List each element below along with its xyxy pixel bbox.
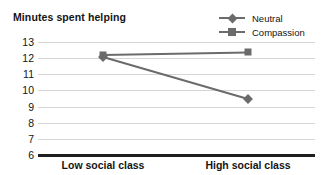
gridline	[38, 90, 315, 91]
x-tick-label-low: Low social class	[62, 159, 145, 171]
series-line-compassion	[103, 51, 248, 55]
gridline	[38, 74, 315, 75]
y-tick-label: 10	[8, 85, 34, 96]
chart-title: Minutes spent helping	[13, 11, 126, 23]
y-tick-label: 9	[8, 101, 34, 112]
gridline	[38, 123, 315, 124]
x-tick-label-high: High social class	[205, 159, 290, 171]
y-axis-tick-labels: 13 12 11 10 9 8 7 6	[4, 42, 34, 155]
gridline	[38, 42, 315, 43]
gridline	[38, 139, 315, 140]
y-tick-label: 13	[8, 37, 34, 48]
square-marker-icon	[219, 26, 245, 38]
data-point-compassion[interactable]	[100, 51, 107, 58]
series-line-neutral	[103, 56, 249, 100]
legend-label-compassion: Compassion	[245, 27, 305, 38]
legend-item-neutral[interactable]: Neutral	[219, 11, 331, 25]
y-tick-label: 11	[8, 69, 34, 80]
gridline	[38, 58, 315, 59]
x-axis-line	[38, 154, 315, 157]
plot-area	[38, 42, 315, 155]
data-point-neutral[interactable]	[243, 94, 253, 104]
line-chart: Minutes spent helping Neutral Compassion…	[0, 0, 336, 175]
x-axis-tick-labels: Low social class High social class	[38, 159, 315, 175]
data-point-compassion[interactable]	[244, 49, 251, 56]
diamond-marker-icon	[219, 12, 245, 24]
legend-label-neutral: Neutral	[245, 13, 283, 24]
gridline	[38, 107, 315, 108]
y-tick-label: 7	[8, 134, 34, 145]
y-tick-label: 8	[8, 117, 34, 128]
y-tick-label: 6	[8, 150, 34, 161]
y-tick-label: 12	[8, 53, 34, 64]
legend-item-compassion[interactable]: Compassion	[219, 25, 331, 39]
chart-legend: Neutral Compassion	[219, 11, 331, 39]
